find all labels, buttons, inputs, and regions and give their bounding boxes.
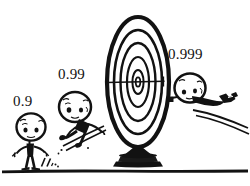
leaping-figure-eye-right: [79, 108, 83, 113]
flying-figure-body: [192, 96, 225, 106]
flying-figure-hand-front: [168, 97, 174, 103]
walking-figure-eye-right: [34, 128, 38, 133]
walking-figure-torso: [27, 144, 35, 158]
probability-label-0-999: 0.999: [168, 47, 203, 62]
probability-label-0-9: 0.9: [13, 94, 32, 109]
walking-figure-motion-lines: [42, 158, 59, 167]
leaping-figure: [58, 92, 106, 154]
flying-figure-eye-left: [182, 89, 186, 94]
leaping-figure-eye-left: [67, 107, 72, 112]
walking-figure-head: [17, 113, 46, 140]
flying-figure-eye-right: [193, 89, 197, 94]
bullseye-target: [107, 17, 170, 167]
walking-figure-leg-left: [26, 157, 29, 169]
target-base: [113, 153, 163, 167]
illustration-canvas: [0, 0, 250, 186]
walking-figure-leg-right: [32, 157, 35, 169]
walking-figure: [12, 113, 59, 170]
walking-figure-arm-left: [17, 147, 28, 154]
leaping-figure-foot-back: [59, 135, 66, 140]
probability-label-0-99: 0.99: [58, 67, 85, 82]
flying-figure-motion-lines: [193, 110, 249, 134]
flying-figure: [168, 74, 249, 135]
walking-figure-arm-right: [34, 147, 45, 153]
walking-figure-eye-left: [23, 128, 27, 133]
cartoon-scene: 0.9 0.99 0.999: [0, 0, 250, 186]
walking-figure-foot-right: [32, 167, 41, 170]
